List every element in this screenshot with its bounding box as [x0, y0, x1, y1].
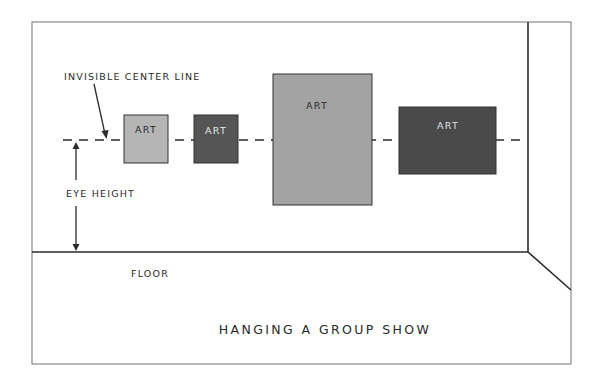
- artwork-3-label: ART: [306, 100, 328, 111]
- artwork-2-label: ART: [205, 125, 227, 136]
- center-line-label: INVISIBLE CENTER LINE: [64, 71, 200, 82]
- artwork-2: ART: [194, 115, 238, 163]
- artwork-1: ART: [124, 115, 168, 163]
- diagram-title: HANGING A GROUP SHOW: [219, 322, 432, 337]
- artwork-4: ART: [399, 107, 496, 174]
- artwork-4-label: ART: [437, 120, 459, 131]
- floor-label: FLOOR: [131, 268, 169, 279]
- group-show-diagram: ART ART ART ART INVISIBLE CENTER LINE EY…: [0, 0, 603, 384]
- artwork-1-label: ART: [135, 124, 157, 135]
- eye-height-label: EYE HEIGHT: [66, 188, 135, 199]
- artwork-3: ART: [273, 74, 372, 205]
